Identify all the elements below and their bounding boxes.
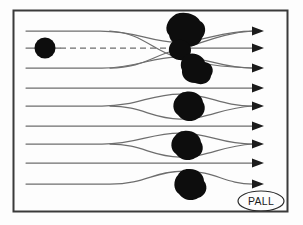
outlet-arrow-4 [252, 84, 264, 93]
outlet-arrow-2 [252, 44, 264, 53]
outlet-arrow-3 [252, 64, 264, 73]
outlet-arrow-7 [252, 140, 264, 149]
streamline-7 [26, 133, 253, 144]
outlet-arrow-group [252, 27, 264, 189]
incoming-particle [35, 38, 56, 59]
outlet-arrow-8 [252, 159, 264, 168]
diagram-frame [14, 11, 288, 212]
particle-blob-bottom-bank-shape [174, 169, 206, 200]
streamline-group [26, 31, 253, 184]
particle-cluster-top-lower-blob [181, 53, 213, 84]
filter-flow-diagram: PALL [0, 0, 303, 225]
streamline-9 [26, 171, 253, 184]
outlet-arrow-9 [252, 180, 264, 189]
streamline-5 [26, 94, 253, 106]
streamline-3 [26, 57, 253, 68]
flow-field: PALL [26, 13, 284, 211]
outlet-arrow-1 [252, 27, 264, 36]
pall-logo: PALL [238, 191, 284, 211]
pall-logo-text: PALL [248, 195, 274, 207]
diagram-canvas: PALL [0, 0, 303, 225]
outlet-arrow-5 [252, 102, 264, 111]
outlet-arrow-6 [252, 122, 264, 131]
